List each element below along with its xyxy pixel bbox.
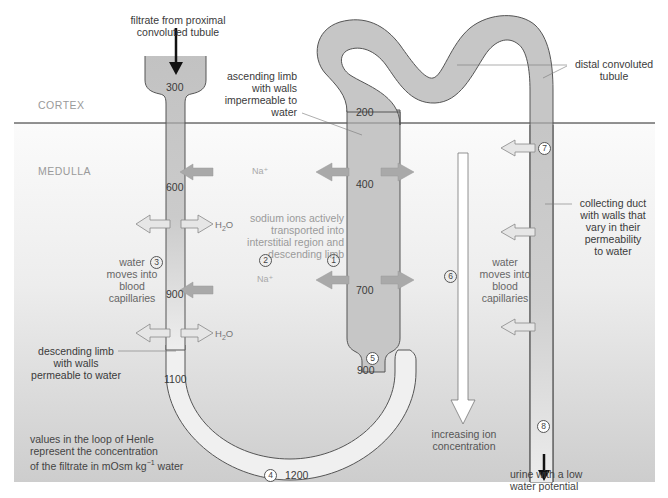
- ascending-limb-label: ascending limb with walls impermeable to…: [215, 70, 297, 118]
- collecting-duct-label: collecting duct with walls that vary in …: [568, 197, 658, 257]
- step-2-marker: 2: [259, 254, 272, 267]
- na-label-1: Na⁺: [252, 166, 268, 176]
- ascending-limb: [347, 110, 400, 372]
- distal-convoluted-tubule-label: distal convoluted tubule: [568, 58, 660, 82]
- step-1-marker: 1: [327, 254, 340, 267]
- water-moves-label-right: water moves into blood capillaries: [475, 256, 535, 304]
- step-5-marker: 5: [366, 352, 379, 365]
- step-4-marker: 4: [264, 469, 277, 482]
- sodium-transport-label: sodium ions actively transported into in…: [232, 212, 344, 260]
- conc-1200: 1200: [285, 469, 308, 481]
- descending-limb-label: descending limb with walls permeable to …: [28, 345, 124, 381]
- increasing-ion-label: increasing ion concentration: [426, 428, 502, 452]
- values-note: values in the loop of Henle represent th…: [30, 433, 183, 472]
- filtrate-label: filtrate from proximal convoluted tubule: [118, 14, 238, 38]
- conc-300: 300: [166, 81, 184, 93]
- h2o-label-2: H2O: [215, 328, 233, 341]
- conc-400: 400: [356, 178, 374, 190]
- h2o-label-1: H2O: [215, 219, 233, 232]
- conc-1100: 1100: [164, 373, 187, 385]
- conc-600: 600: [166, 181, 184, 193]
- conc-200: 200: [356, 106, 374, 118]
- step-6-marker: 6: [444, 270, 457, 283]
- conc-900-asc: 900: [357, 364, 375, 376]
- urine-label: urine with a low water potential: [510, 468, 610, 492]
- loop-of-henle-diagram: CORTEX MEDULLA filtrate from proximal co…: [0, 0, 668, 498]
- step-8-marker: 8: [537, 420, 550, 433]
- conc-700: 700: [356, 284, 374, 296]
- conc-900-desc: 900: [166, 288, 184, 300]
- medulla-label: MEDULLA: [38, 165, 91, 177]
- na-label-2: Na⁺: [257, 274, 273, 284]
- step-3-marker: 3: [150, 256, 163, 269]
- step-7-marker: 7: [538, 142, 551, 155]
- cortex-label: CORTEX: [38, 99, 85, 111]
